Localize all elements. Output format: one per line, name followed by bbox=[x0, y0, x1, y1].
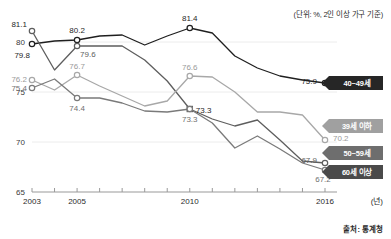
data-marker bbox=[322, 160, 327, 165]
gridlines-group bbox=[32, 42, 337, 142]
data-label: 74.4 bbox=[69, 104, 85, 113]
y-axis-tick-label: 70 bbox=[16, 138, 25, 147]
unit-note: (단위: %, 2인 이상 가구 기준) bbox=[294, 8, 383, 19]
x-axis-group: 2003200520102016 bbox=[23, 188, 337, 206]
source-note: 출처: 통계청 bbox=[343, 223, 383, 234]
y-axis-tick-label: 80 bbox=[16, 38, 25, 47]
data-label: 81.1 bbox=[11, 20, 27, 29]
data-label: 76.6 bbox=[182, 63, 198, 72]
chart-container: (단위: %, 2인 이상 가구 기준) 출처: 통계청 80757065 20… bbox=[0, 0, 391, 239]
data-marker bbox=[187, 106, 192, 111]
data-marker bbox=[74, 72, 79, 77]
y-axis-tick-label: 65 bbox=[16, 188, 25, 197]
data-label: 75.4 bbox=[11, 84, 27, 93]
data-label: 80.2 bbox=[69, 26, 85, 35]
data-label: 75.9 bbox=[301, 77, 317, 86]
data-label: 79.8 bbox=[14, 51, 30, 60]
series-line-60세 이상 bbox=[32, 79, 325, 170]
data-marker bbox=[322, 137, 327, 142]
x-axis-unit-group: (년) bbox=[371, 196, 384, 206]
data-marker bbox=[74, 37, 79, 42]
legend-label: 40~49세 bbox=[344, 78, 371, 88]
data-label: 76.7 bbox=[69, 62, 85, 71]
data-label: 73.3 bbox=[182, 115, 198, 124]
data-label: 81.4 bbox=[182, 14, 198, 23]
data-marker bbox=[74, 43, 79, 48]
data-label: 76.2 bbox=[11, 75, 27, 84]
data-labels-group: 79.880.281.475.981.179.673.367.976.276.7… bbox=[11, 14, 349, 184]
x-axis-tick-label: 2005 bbox=[68, 197, 86, 206]
data-label: 79.6 bbox=[80, 50, 96, 59]
legend-group: 40~49세39세 이하50~59세60세 이상 bbox=[322, 76, 383, 179]
data-label: 73.3 bbox=[196, 106, 212, 115]
x-axis-tick-label: 2010 bbox=[181, 197, 199, 206]
x-axis-tick-label: 2016 bbox=[316, 197, 334, 206]
data-marker bbox=[74, 95, 79, 100]
data-marker bbox=[29, 28, 34, 33]
x-axis-tick-label: 2003 bbox=[23, 197, 41, 206]
data-marker bbox=[187, 73, 192, 78]
y-axis-labels-group: 80757065 bbox=[16, 38, 25, 197]
legend-label: 50~59세 bbox=[344, 148, 371, 158]
data-marker bbox=[29, 77, 34, 82]
line-chart-svg: 80757065 2003200520102016 79.880.281.475… bbox=[0, 0, 391, 239]
legend-label: 39세 이하 bbox=[342, 121, 372, 131]
data-marker bbox=[29, 41, 34, 46]
data-marker bbox=[29, 85, 34, 90]
x-axis-unit-label: (년) bbox=[371, 196, 384, 206]
data-marker bbox=[187, 25, 192, 30]
data-label: 67.9 bbox=[301, 156, 317, 165]
data-label: 70.2 bbox=[333, 134, 349, 143]
legend-label: 60세 이상 bbox=[342, 167, 372, 177]
